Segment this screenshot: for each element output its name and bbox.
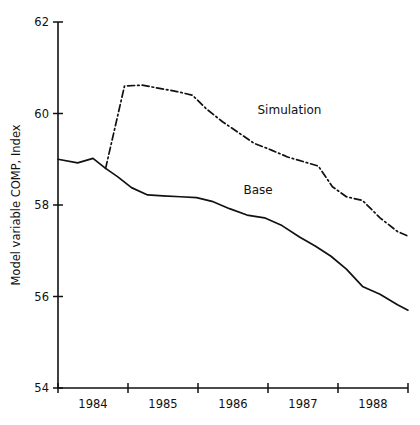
- series-group: [58, 85, 408, 310]
- x-tick-label: 1985: [148, 397, 177, 411]
- series-annotations: BaseSimulation: [244, 103, 322, 197]
- y-tick-label: 56: [34, 290, 49, 304]
- chart-container: 5456586062 19841985198619871988 Model va…: [0, 0, 420, 425]
- y-tick-label: 60: [34, 107, 49, 121]
- x-tick-label: 1987: [288, 397, 317, 411]
- axes-group: [58, 22, 408, 388]
- x-tick-label: 1986: [218, 397, 247, 411]
- y-tick-label: 62: [34, 15, 49, 29]
- x-tick-label: 1984: [78, 397, 107, 411]
- line-chart: 5456586062 19841985198619871988 Model va…: [0, 0, 420, 425]
- series-label-base: Base: [244, 183, 273, 197]
- y-axis-title: Model variable COMP, Index: [9, 124, 23, 285]
- series-label-simulation: Simulation: [258, 103, 322, 117]
- x-tick-label: 1988: [358, 397, 387, 411]
- y-tick-label: 54: [34, 381, 49, 395]
- series-line-base: [58, 158, 408, 310]
- y-tick-label: 58: [34, 198, 49, 212]
